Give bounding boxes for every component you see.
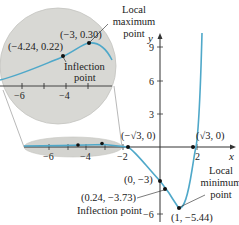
y-tick-3: 3 <box>149 109 154 120</box>
local-min-label-line1: Local <box>209 165 233 176</box>
local-max-dot-small <box>100 142 104 146</box>
neg-root-label: (−√3, 0) <box>121 130 156 142</box>
local-min-label-line2: minimum <box>201 177 239 188</box>
inflection-dot-small <box>76 143 80 147</box>
x-tick-m2: −2 <box>117 151 128 162</box>
neg-root-dot <box>126 145 130 149</box>
inflection-point-2-label: Inflection point <box>77 205 142 216</box>
x-tick-m6: −6 <box>43 151 54 162</box>
inflection-point-2-coord: (0.24, −3.73) <box>81 192 136 204</box>
inset-tick-m6: −6 <box>14 90 25 101</box>
inflection-point-coord-label: (−4.24, 0.22) <box>8 41 63 53</box>
x-tick-2: 2 <box>195 151 200 162</box>
y-intercept-label: (0, −3) <box>124 174 153 186</box>
pos-root-label: (√3, 0) <box>196 130 225 142</box>
pos-root-dot <box>191 145 195 149</box>
inset-tick-m4: −4 <box>59 90 70 101</box>
chart-svg: −6 −4 (−4.24, 0.22) (−3, 0.30) Inflectio… <box>0 0 239 225</box>
local-max-label-line2: maximum <box>113 16 156 27</box>
local-max-label-line1: Local <box>122 4 146 15</box>
local-max-coord-label: (−3, 0.30) <box>60 29 102 41</box>
local-min-label-line3: point <box>210 189 232 200</box>
inflection-label-line1: Inflection <box>64 61 106 72</box>
y-tick-m6: −6 <box>143 209 154 220</box>
y-intercept-dot <box>158 179 162 183</box>
local-min-coord-label: (1, −5.44) <box>171 212 213 224</box>
y-tick-9: 9 <box>149 42 154 53</box>
chart-figure: −6 −4 (−4.24, 0.22) (−3, 0.30) Inflectio… <box>0 0 239 225</box>
y-tick-6: 6 <box>149 76 154 87</box>
local-max-label-line3: point <box>123 28 145 39</box>
x-axis-label: x <box>228 150 234 162</box>
x-tick-m4: −4 <box>80 151 91 162</box>
inflection-label-line2: point <box>74 72 96 83</box>
